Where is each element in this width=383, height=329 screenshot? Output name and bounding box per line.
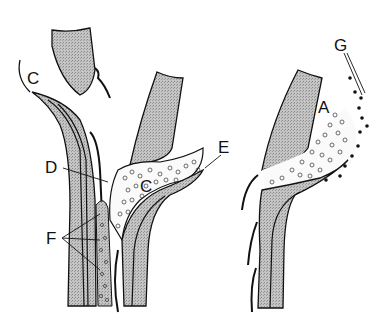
label-f: F — [46, 230, 56, 247]
label-a: A — [318, 99, 329, 116]
diagram-drawing — [0, 0, 383, 329]
label-c-mid: C — [140, 178, 152, 195]
left-lower-stem-spine — [115, 250, 118, 312]
label-c-top: C — [27, 70, 39, 87]
center-leaf — [130, 72, 183, 165]
upper-leaf-shape — [52, 28, 95, 95]
label-e: E — [218, 139, 229, 156]
right-spine-3 — [252, 268, 257, 312]
diagram-figure: C C D E F G A — [0, 0, 383, 329]
right-spine-1 — [242, 175, 258, 210]
label-g: G — [334, 37, 347, 54]
label-d: D — [45, 159, 57, 176]
upper-leaf-tail — [95, 68, 110, 98]
right-spine-2 — [248, 222, 257, 265]
